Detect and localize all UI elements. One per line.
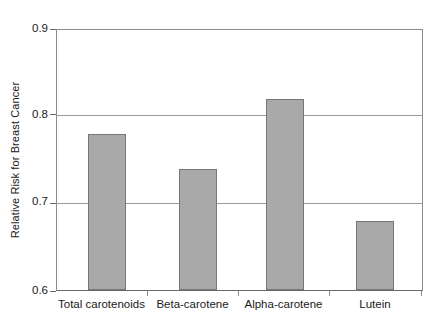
x-tick-mark-3	[329, 291, 330, 296]
x-label-beta-carotene: Beta-carotene	[147, 298, 238, 311]
bar-chart: Relative Risk for Breast Cancer 0.9 0.8 …	[0, 0, 435, 325]
y-tick-label-0.8: 0.8	[8, 109, 48, 120]
bar-alpha-carotene	[266, 99, 304, 290]
x-label-alpha-carotene: Alpha-carotene	[238, 298, 329, 311]
bar-beta-carotene	[179, 169, 217, 290]
x-label-total-carotenoids: Total carotenoids	[56, 298, 147, 311]
bar-total-carotenoids	[88, 134, 126, 290]
y-axis-title: Relative Risk for Breast Cancer	[7, 29, 23, 291]
x-tick-mark-2	[238, 291, 239, 296]
y-tick-label-0.6: 0.6	[8, 285, 48, 296]
x-tick-mark-1	[147, 291, 148, 296]
x-tick-mark-4	[421, 291, 422, 296]
y-tick-label-0.7: 0.7	[8, 196, 48, 207]
bar-lutein	[356, 221, 394, 290]
x-label-lutein: Lutein	[329, 298, 421, 311]
gridline-0.8	[57, 115, 422, 116]
y-tick-label-0.9: 0.9	[8, 23, 48, 34]
plot-area	[56, 29, 423, 291]
y-tick-mark-0.6	[50, 291, 56, 292]
